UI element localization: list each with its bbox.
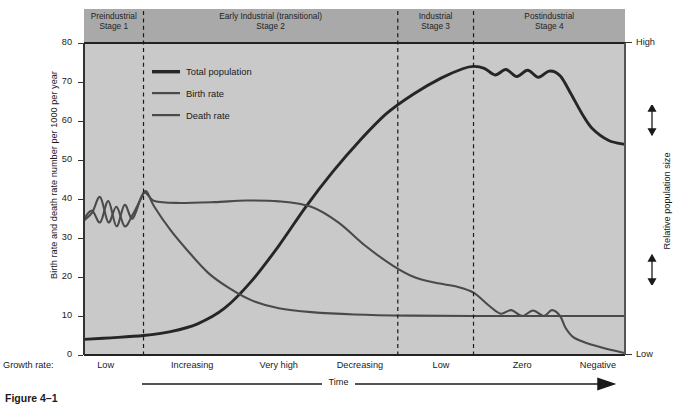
y-tick-mark-70 [78, 82, 83, 83]
y-tick-mark-40 [78, 199, 83, 200]
y-tick-label-10: 10 [46, 310, 72, 320]
figure-caption: Figure 4–1 [5, 392, 58, 404]
right-axis-high-tick [625, 42, 632, 43]
time-axis-label-text: Time [322, 377, 354, 387]
y-tick-label-40: 40 [46, 193, 72, 203]
stage-number: Stage 4 [469, 21, 629, 31]
y-tick-mark-10 [78, 316, 83, 317]
stage-name: Early Industrial (transitional) [191, 11, 351, 21]
legend-item-0: Total population [152, 63, 252, 80]
figure-container: PreindustrialStage 1Early Industrial (tr… [0, 0, 677, 413]
relative-population-arrows [643, 105, 661, 285]
y-tick-label-20: 20 [46, 271, 72, 281]
legend-label: Total population [186, 66, 252, 77]
y-tick-mark-20 [78, 277, 83, 278]
y-tick-mark-30 [78, 238, 83, 239]
stage-label-2: Early Industrial (transitional)Stage 2 [191, 11, 351, 32]
series-line-death-rate [84, 191, 625, 316]
y-tick-mark-0 [78, 355, 83, 356]
legend-label: Birth rate [186, 88, 224, 99]
stage-name: Postindustrial [469, 11, 629, 21]
right-axis-high-label: High [636, 37, 655, 47]
legend-swatch-icon [152, 113, 180, 118]
relative-population-size-label: Relative population size [662, 121, 672, 281]
y-tick-label-0: 0 [46, 349, 72, 359]
series-line-birth-rate [84, 193, 625, 353]
axis-right-line [624, 43, 626, 355]
time-axis-label: Time [0, 377, 677, 387]
right-axis-low-label: Low [636, 349, 653, 359]
y-tick-label-80: 80 [46, 37, 72, 47]
y-tick-mark-50 [78, 160, 83, 161]
axis-bottom-line [84, 354, 625, 356]
growth-rate-row-label: Growth rate: [3, 360, 54, 370]
legend-item-1: Birth rate [152, 85, 252, 102]
y-tick-label-50: 50 [46, 154, 72, 164]
right-axis-low-tick [625, 354, 632, 355]
y-tick-label-30: 30 [46, 232, 72, 242]
legend-item-2: Death rate [152, 107, 252, 124]
growth-rate-label-2: Increasing [142, 360, 242, 370]
y-tick-label-60: 60 [46, 115, 72, 125]
growth-rate-label-7: Negative [548, 360, 648, 370]
growth-rate-label-1: Low [56, 360, 156, 370]
chart-legend: Total populationBirth rateDeath rate [152, 63, 252, 129]
y-tick-label-70: 70 [46, 76, 72, 86]
legend-label: Death rate [186, 110, 230, 121]
stage-number: Stage 2 [191, 21, 351, 31]
stage-label-4: PostindustrialStage 4 [469, 11, 629, 32]
legend-swatch-icon [152, 69, 180, 75]
axis-top-line [84, 42, 625, 44]
legend-swatch-icon [152, 91, 180, 96]
y-tick-mark-80 [78, 43, 83, 44]
y-tick-mark-60 [78, 121, 83, 122]
stage-name: Preindustrial [34, 11, 194, 21]
axis-left-line [83, 43, 85, 355]
